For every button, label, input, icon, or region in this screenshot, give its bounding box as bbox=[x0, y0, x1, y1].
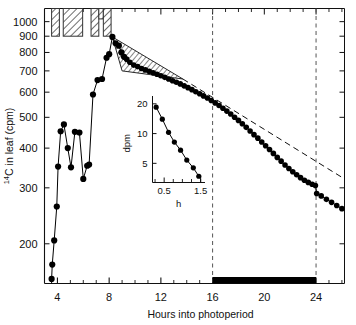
y-tick-label: 400 bbox=[19, 142, 37, 154]
light-period-bar bbox=[99, 9, 104, 19]
y-tick-label: 500 bbox=[19, 111, 37, 123]
y-axis-label: 14C in leaf (cpm) bbox=[2, 108, 16, 185]
inset-data-point bbox=[191, 165, 196, 170]
extrapolation-dashed-line bbox=[183, 79, 345, 179]
inset-y-tick-label: 20 bbox=[137, 98, 148, 109]
inset-y-tick-label: 5 bbox=[142, 158, 147, 169]
inset-data-point bbox=[160, 117, 165, 122]
inset-y-tick-label: 10 bbox=[137, 128, 148, 139]
x-tick-label: 20 bbox=[258, 291, 270, 303]
x-tick-label: 16 bbox=[206, 291, 218, 303]
data-point bbox=[329, 200, 335, 206]
data-point bbox=[68, 164, 74, 170]
data-point bbox=[106, 51, 112, 57]
x-tick-label: 12 bbox=[155, 291, 167, 303]
x-tick-label: 8 bbox=[106, 291, 112, 303]
extrapolation-line bbox=[183, 79, 345, 179]
data-point bbox=[58, 128, 64, 134]
inset-data-point bbox=[172, 140, 177, 145]
data-point bbox=[90, 91, 96, 97]
data-point bbox=[54, 203, 60, 209]
data-point bbox=[65, 145, 71, 151]
inset-decay-plot: 510200.51.5hdpm bbox=[121, 96, 208, 209]
light-period-bars bbox=[52, 9, 111, 37]
y-tick-label: 1000 bbox=[13, 16, 37, 28]
data-point bbox=[61, 121, 67, 127]
dark-period-bar-shape bbox=[213, 277, 316, 284]
semilog-chart: 20030040050060070080090010004812162024 5… bbox=[0, 0, 356, 325]
light-period-bar bbox=[103, 9, 111, 37]
data-point bbox=[109, 34, 115, 40]
data-point bbox=[313, 183, 319, 189]
data-point bbox=[99, 76, 105, 82]
data-point bbox=[86, 162, 92, 168]
y-axis-label-superscript: 14 bbox=[2, 176, 11, 184]
data-point bbox=[80, 176, 86, 182]
data-point bbox=[49, 262, 55, 268]
data-point bbox=[324, 197, 330, 203]
light-period-bar bbox=[91, 9, 99, 37]
data-point bbox=[76, 129, 82, 135]
data-point bbox=[116, 43, 122, 49]
dark-period-bar bbox=[213, 277, 316, 284]
series-line bbox=[52, 37, 342, 279]
y-tick-label: 600 bbox=[19, 86, 37, 98]
y-tick-label: 200 bbox=[19, 238, 37, 250]
data-point bbox=[51, 237, 57, 243]
light-period-bar bbox=[52, 9, 60, 37]
inset-data-point bbox=[166, 130, 171, 135]
light-period-bar bbox=[63, 9, 82, 37]
y-axis-label-text: C in leaf (cpm) bbox=[3, 108, 15, 176]
y-tick-label: 900 bbox=[19, 30, 37, 42]
data-point bbox=[318, 193, 324, 199]
data-point bbox=[271, 151, 277, 157]
inset-data-point bbox=[154, 105, 159, 110]
data-point bbox=[339, 206, 345, 212]
y-tick-label: 700 bbox=[19, 65, 37, 77]
inset-x-tick-label: 0.5 bbox=[158, 185, 171, 196]
y-tick-label: 800 bbox=[19, 46, 37, 58]
x-axis-label: Hours into photoperiod bbox=[147, 308, 253, 320]
y-tick-label: 300 bbox=[19, 182, 37, 194]
figure-root: 20030040050060070080090010004812162024 5… bbox=[0, 0, 356, 325]
axes: 20030040050060070080090010004812162024 bbox=[13, 9, 344, 303]
data-point bbox=[334, 203, 340, 209]
inset-x-tick-label: 1.5 bbox=[194, 185, 207, 196]
main-data-series bbox=[49, 34, 345, 284]
inset-data-point bbox=[196, 174, 201, 179]
x-tick-label: 4 bbox=[54, 291, 60, 303]
data-point bbox=[49, 276, 55, 282]
inset-data-point bbox=[184, 157, 189, 162]
inset-y-axis-label: dpm bbox=[121, 134, 132, 153]
data-point bbox=[55, 163, 61, 169]
x-tick-label: 24 bbox=[310, 291, 322, 303]
inset-x-axis-label: h bbox=[176, 198, 181, 209]
inset-data-point bbox=[178, 148, 183, 153]
